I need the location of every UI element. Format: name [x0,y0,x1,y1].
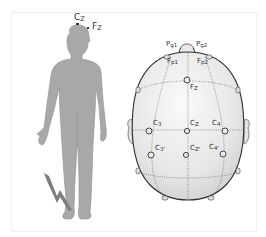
label-pg1: Pg1 [166,41,177,49]
human-body-silhouette-icon [37,25,106,219]
electrode-c3 [146,128,152,134]
label-cz-body: CZ [74,13,85,23]
label-fp2: Fp2 [197,58,208,66]
label-c4-prime: C4' [209,144,219,152]
label-cz-head: CZ [190,120,199,128]
cz-electrode-marker [76,23,79,25]
body-panel [0,0,266,237]
fz-electrode-marker [87,27,89,29]
label-cz-prime: CZ' [190,145,200,153]
electrode-c3-prime [148,152,154,158]
right-ear [244,120,249,144]
label-fp1: Fp1 [167,58,178,66]
label-c3-prime: C3' [155,145,165,153]
electrode-cz [184,128,189,133]
head-panel [128,44,249,200]
electrode-c4-prime [220,151,226,157]
electrode-c4 [222,128,228,134]
label-c3: C3 [153,120,161,128]
label-pg2: Pg2 [196,41,207,49]
label-c4: C4 [212,120,220,128]
label-fz-head: FZ [190,84,198,92]
electrode-cz-prime [183,152,188,157]
label-fz-body: FZ [92,22,102,32]
